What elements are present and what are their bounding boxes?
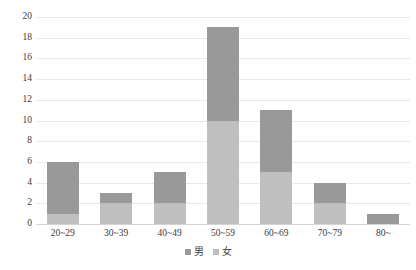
bar-slot bbox=[303, 17, 356, 224]
legend-swatch-icon bbox=[185, 249, 191, 255]
bar-slot bbox=[250, 17, 303, 224]
y-axis-tick-label: 16 bbox=[2, 54, 32, 64]
bar-stack[interactable] bbox=[207, 27, 239, 224]
chart-legend: 男女 bbox=[0, 247, 416, 257]
bar-segment[interactable] bbox=[260, 172, 292, 224]
bar-segment[interactable] bbox=[154, 172, 186, 203]
bar-stack[interactable] bbox=[314, 183, 346, 224]
x-axis-tick-label: 50~59 bbox=[211, 229, 235, 239]
y-axis-tick-label: 18 bbox=[2, 33, 32, 43]
bar-stack[interactable] bbox=[47, 162, 79, 224]
bar-segment[interactable] bbox=[314, 203, 346, 224]
y-axis-tick-label: 8 bbox=[2, 136, 32, 146]
y-axis-tick-label: 6 bbox=[2, 157, 32, 167]
y-axis-tick-label: 2 bbox=[2, 199, 32, 209]
bar-segment[interactable] bbox=[260, 110, 292, 172]
x-axis-tick-label: 20~29 bbox=[51, 229, 75, 239]
x-axis-tick-label: 80~ bbox=[376, 229, 391, 239]
bar-segment[interactable] bbox=[207, 121, 239, 225]
bar-segment[interactable] bbox=[207, 27, 239, 120]
bar-stack[interactable] bbox=[154, 172, 186, 224]
bar-segment[interactable] bbox=[47, 214, 79, 224]
legend-label: 女 bbox=[222, 247, 232, 257]
legend-item[interactable]: 女 bbox=[213, 247, 232, 257]
bar-segment[interactable] bbox=[314, 183, 346, 204]
bar-slot bbox=[196, 17, 249, 224]
stacked-bar-chart: 男女 0246810121416182020~2930~3940~4950~59… bbox=[0, 0, 416, 270]
bar-slot bbox=[143, 17, 196, 224]
x-axis-tick-label: 70~79 bbox=[318, 229, 342, 239]
legend-swatch-icon bbox=[213, 249, 219, 255]
bar-slot bbox=[36, 17, 89, 224]
plot-area bbox=[36, 17, 410, 224]
bar-segment[interactable] bbox=[47, 162, 79, 214]
bar-slot bbox=[357, 17, 410, 224]
legend-label: 男 bbox=[194, 247, 204, 257]
bar-segment[interactable] bbox=[100, 193, 132, 203]
y-axis-tick-label: 0 bbox=[2, 219, 32, 229]
y-axis-tick-label: 12 bbox=[2, 95, 32, 105]
bars-layer bbox=[36, 17, 410, 224]
bar-slot bbox=[89, 17, 142, 224]
y-axis-tick-label: 20 bbox=[2, 12, 32, 22]
bar-stack[interactable] bbox=[367, 214, 399, 224]
x-axis-tick-label: 40~49 bbox=[157, 229, 181, 239]
y-axis-tick-label: 10 bbox=[2, 116, 32, 126]
y-axis-tick-label: 4 bbox=[2, 178, 32, 188]
x-axis-tick-label: 30~39 bbox=[104, 229, 128, 239]
bar-stack[interactable] bbox=[100, 193, 132, 224]
y-axis-tick-label: 14 bbox=[2, 74, 32, 84]
bar-segment[interactable] bbox=[154, 203, 186, 224]
bar-segment[interactable] bbox=[367, 214, 399, 224]
gridline bbox=[36, 224, 410, 225]
legend-item[interactable]: 男 bbox=[185, 247, 204, 257]
bar-segment[interactable] bbox=[100, 203, 132, 224]
bar-stack[interactable] bbox=[260, 110, 292, 224]
x-axis-tick-label: 60~69 bbox=[264, 229, 288, 239]
